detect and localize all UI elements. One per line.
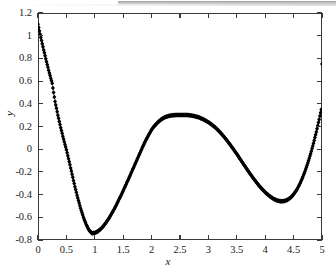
x-tick (179, 235, 180, 240)
x-tick-top (66, 13, 67, 18)
x-tick-top (236, 13, 237, 18)
y-tick (317, 194, 322, 195)
x-tick (265, 235, 266, 240)
y-tick (38, 239, 43, 240)
figure-page: 1.210.80.60.40.20-0.2-0.4-0.6-0.8 00.511… (0, 0, 336, 276)
x-tick-top (94, 13, 95, 18)
x-tick (66, 235, 67, 240)
y-tick (38, 217, 43, 218)
x-tick (151, 235, 152, 240)
y-tick (38, 35, 43, 36)
y-axis-title: y (3, 111, 15, 116)
y-tick (317, 217, 322, 218)
y-tick (317, 126, 322, 127)
y-tick-label: -0.2 (0, 166, 32, 177)
y-tick (317, 171, 322, 172)
y-tick (317, 81, 322, 82)
x-tick (94, 235, 95, 240)
x-tick-label: 5 (302, 244, 336, 255)
y-tick-label: 0 (0, 143, 32, 154)
y-tick (38, 194, 43, 195)
y-tick (38, 12, 43, 13)
data-curve (38, 13, 322, 240)
y-tick (38, 149, 43, 150)
x-tick-top (208, 13, 209, 18)
scan-artifact-band (0, 4, 336, 6)
x-tick-top (179, 13, 180, 18)
y-tick (38, 126, 43, 127)
plot-area (38, 13, 322, 240)
y-tick-label: 0.6 (0, 75, 32, 86)
x-axis-title: x (0, 255, 336, 267)
x-tick-top (293, 13, 294, 18)
marker-group (38, 22, 322, 236)
x-tick (37, 235, 38, 240)
x-tick-top (37, 13, 38, 18)
x-tick (321, 235, 322, 240)
x-tick (208, 235, 209, 240)
y-tick-label: 0.4 (0, 98, 32, 109)
x-tick-top (123, 13, 124, 18)
y-tick-label: 1 (0, 30, 32, 41)
y-tick (317, 149, 322, 150)
y-tick (38, 58, 43, 59)
x-tick (293, 235, 294, 240)
y-tick (317, 58, 322, 59)
y-tick-label: -0.4 (0, 189, 32, 200)
y-tick (317, 35, 322, 36)
x-tick-top (265, 13, 266, 18)
y-tick (38, 81, 43, 82)
y-tick-label: 1.2 (0, 7, 32, 18)
y-tick (38, 103, 43, 104)
x-tick-top (151, 13, 152, 18)
y-tick-label: 0.2 (0, 121, 32, 132)
x-tick (123, 235, 124, 240)
y-tick-label: 0.8 (0, 52, 32, 63)
x-tick (236, 235, 237, 240)
x-tick-top (321, 13, 322, 18)
y-tick (38, 171, 43, 172)
y-tick-label: -0.6 (0, 211, 32, 222)
y-tick (317, 103, 322, 104)
